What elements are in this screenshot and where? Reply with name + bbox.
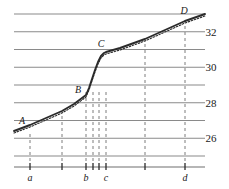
gridlines-group	[14, 14, 205, 156]
y-axis-tick-label-30: 30	[206, 61, 218, 73]
x-axis-tick-label-c: c	[104, 172, 109, 183]
curve-fitted	[14, 16, 205, 133]
x-axis-ticks-group: abcd	[28, 163, 189, 183]
x-axis-tick-label-d: d	[183, 172, 189, 183]
x-axis-tick-label-a: a	[28, 172, 33, 183]
y-axis-tick-label-26: 26	[206, 132, 218, 144]
plot-svg: abcd 32302826 ABCD	[0, 0, 229, 189]
point-labels-group: ABCD	[18, 5, 188, 126]
y-tick-labels-group: 32302826	[206, 26, 218, 145]
curve-point-label-D: D	[179, 5, 188, 16]
dashed-verticals-group	[30, 18, 185, 161]
curve-point-label-A: A	[18, 115, 26, 126]
curve-point-label-C: C	[98, 38, 105, 49]
y-axis-tick-label-28: 28	[206, 97, 218, 109]
x-axis-tick-label-b: b	[84, 172, 89, 183]
y-axis-tick-label-32: 32	[206, 26, 217, 38]
curve-point-label-B: B	[75, 84, 81, 95]
